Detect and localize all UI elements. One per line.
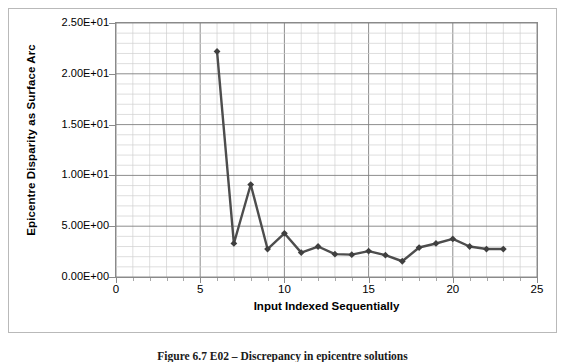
y-tick-mark <box>109 125 115 126</box>
data-series-line <box>116 23 537 277</box>
x-tick-mark-minor <box>402 278 403 281</box>
x-tick-mark-minor <box>217 278 218 281</box>
x-axis-title: Input Indexed Sequentially <box>115 300 538 312</box>
x-tick-mark-minor <box>470 278 471 281</box>
x-tick-mark-minor <box>268 278 269 281</box>
x-tick-label: 20 <box>433 282 473 296</box>
x-tick-mark <box>284 278 285 283</box>
y-tick-label: 5.00E+00 <box>35 220 109 231</box>
x-tick-mark-minor <box>520 278 521 281</box>
x-tick-mark-minor <box>183 278 184 281</box>
y-axis-tick-labels: 0.00E+005.00E+001.00E+011.50E+012.00E+01… <box>33 0 109 300</box>
y-tick-mark <box>109 74 115 75</box>
x-tick-mark-minor <box>318 278 319 281</box>
x-tick-mark-minor <box>167 278 168 281</box>
x-axis-tick-labels: 0510152025 <box>0 282 565 302</box>
x-tick-mark-minor <box>487 278 488 281</box>
y-tick-mark <box>109 277 115 278</box>
plot-area <box>115 22 538 278</box>
x-tick-mark <box>200 278 201 283</box>
x-tick-mark-minor <box>436 278 437 281</box>
x-tick-mark-minor <box>301 278 302 281</box>
x-tick-mark-minor <box>150 278 151 281</box>
y-tick-label: 2.00E+01 <box>35 68 109 79</box>
x-tick-mark <box>369 278 370 283</box>
x-tick-mark-minor <box>133 278 134 281</box>
x-tick-mark-minor <box>385 278 386 281</box>
y-tick-mark <box>109 226 115 227</box>
x-tick-label: 5 <box>180 282 220 296</box>
x-tick-mark <box>537 278 538 283</box>
x-tick-label: 25 <box>517 282 557 296</box>
x-tick-label: 10 <box>264 282 304 296</box>
x-tick-mark-minor <box>234 278 235 281</box>
figure-caption: Figure 6.7 E02 – Discrepancy in epicentr… <box>0 350 565 362</box>
y-tick-label: 2.50E+01 <box>35 17 109 28</box>
x-tick-mark-minor <box>352 278 353 281</box>
y-tick-mark <box>109 175 115 176</box>
x-tick-mark <box>116 278 117 283</box>
x-tick-label: 0 <box>96 282 136 296</box>
y-tick-mark <box>109 23 115 24</box>
y-tick-label: 1.50E+01 <box>35 119 109 130</box>
x-tick-label: 15 <box>349 282 389 296</box>
x-tick-mark-minor <box>503 278 504 281</box>
x-tick-mark <box>453 278 454 283</box>
y-tick-label: 1.00E+01 <box>35 169 109 180</box>
x-tick-mark-minor <box>335 278 336 281</box>
x-tick-mark-minor <box>251 278 252 281</box>
y-tick-label: 0.00E+00 <box>35 271 109 282</box>
x-tick-mark-minor <box>419 278 420 281</box>
